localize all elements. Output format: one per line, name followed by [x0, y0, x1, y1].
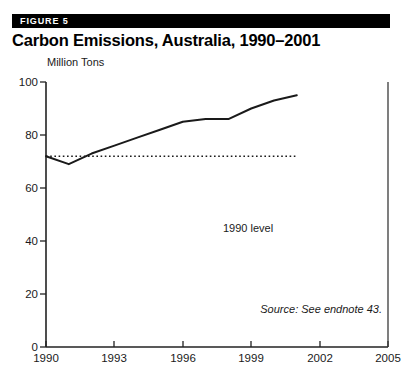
- figure-number-label: FIGURE 5: [20, 15, 69, 27]
- y-tick-label: 60: [25, 182, 38, 194]
- reference-line-label: 1990 level: [223, 222, 273, 234]
- x-tick-label: 1990: [33, 352, 59, 364]
- x-tick-label: 1993: [101, 352, 127, 364]
- source-note: Source: See endnote 43.: [260, 303, 382, 315]
- y-axis-unit-label: Million Tons: [47, 56, 105, 68]
- y-axis-ticks: [40, 82, 46, 347]
- x-axis-ticks: [46, 341, 388, 347]
- x-tick-label: 2002: [307, 352, 333, 364]
- x-tick-label: 1999: [238, 352, 264, 364]
- x-tick-label: 1996: [170, 352, 196, 364]
- y-tick-label: 80: [25, 129, 38, 141]
- x-axis-tick-labels: 1990 1993 1996 1999 2002 2005: [33, 352, 401, 364]
- y-tick-label: 40: [25, 235, 38, 247]
- figure-banner: FIGURE 5: [12, 14, 390, 28]
- chart-container: Million Tons 100 80 60 40 20 0: [0, 54, 412, 372]
- line-chart: Million Tons 100 80 60 40 20 0: [0, 54, 412, 372]
- y-axis-tick-labels: 100 80 60 40 20 0: [19, 76, 38, 353]
- y-tick-label: 100: [19, 76, 38, 88]
- y-tick-label: 20: [25, 288, 38, 300]
- emissions-series-line: [46, 95, 297, 164]
- x-tick-label: 2005: [375, 352, 401, 364]
- page-title: Carbon Emissions, Australia, 1990–2001: [12, 31, 320, 50]
